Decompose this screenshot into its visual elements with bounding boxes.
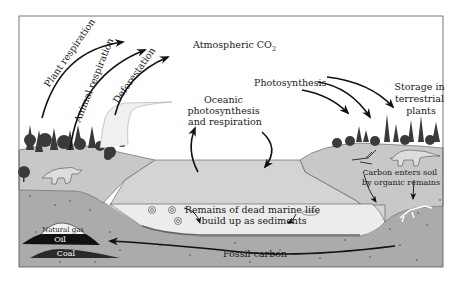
marine-remains-label: Remains of dead marine life build up as …: [185, 204, 323, 226]
photosynthesis-label: Photosynthesis: [254, 77, 327, 88]
natural-gas-label: Natural gas: [42, 226, 84, 234]
oil-label: Oil: [54, 235, 66, 244]
carbon-cycle-diagram: Atmospheric CO2 Plant respiration Animal…: [0, 0, 462, 282]
fossil-carbon-label: Fossil carbon: [223, 248, 287, 259]
coal-label: Coal: [57, 249, 76, 258]
carbon-soil-label: Carbon enters soil by organic remains: [362, 168, 440, 187]
